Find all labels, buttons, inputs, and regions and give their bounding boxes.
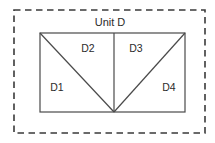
region-label-d4: D4 (162, 81, 176, 93)
unit-rectangle (40, 33, 185, 112)
left-diagonal-line (40, 33, 114, 112)
region-label-d2: D2 (81, 42, 95, 54)
diagram-canvas: Unit D D2 D3 D1 D4 (0, 0, 215, 143)
region-label-d1: D1 (50, 81, 64, 93)
unit-d-figure: Unit D D2 D3 D1 D4 (0, 0, 215, 143)
right-diagonal-line (114, 33, 185, 112)
region-label-d3: D3 (129, 42, 143, 54)
unit-title: Unit D (95, 16, 126, 28)
outer-dashed-boundary (14, 10, 205, 133)
